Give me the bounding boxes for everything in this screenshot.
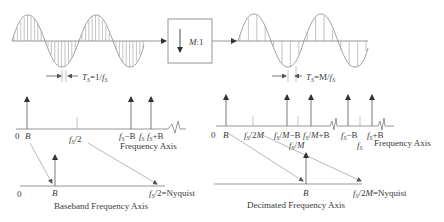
tick-B: B xyxy=(52,188,58,198)
tick-fs-half: fS/2 xyxy=(69,134,82,145)
tick-fs-M: fS/M xyxy=(289,140,305,151)
period-label-left: TS=1/fS xyxy=(82,72,108,83)
tick-0: 0 xyxy=(15,131,20,141)
axis-break-icon xyxy=(378,118,394,130)
sine-wave xyxy=(238,14,368,67)
frequency-axis-label: Frequency Axis xyxy=(120,141,177,151)
period-label-right: TS=M/fS xyxy=(306,72,335,83)
decimator-block: M:1 xyxy=(168,19,222,63)
tick-B: B xyxy=(25,131,31,141)
baseband-axis-label: Baseband Frequency Axis xyxy=(54,201,148,211)
decimation-factor-label: M:1 xyxy=(188,37,204,47)
right-frequency-spectrum: 0 B fS/2M fS/M−B fS/M+B fS/M fS−B fS fS+… xyxy=(211,95,431,151)
left-frequency-spectrum: 0 B fS/2 fS−B fS fS+B Frequency Axis xyxy=(15,97,186,151)
mapping-line-B xyxy=(30,143,52,183)
tick-fs-2M: fS/2M xyxy=(244,130,265,141)
decimation-diagram: TS=1/fS M:1 TS=M/fS 0 B fS/2 fS−B fS fS+… xyxy=(0,0,444,222)
tick-B: B xyxy=(223,130,229,140)
tick-fs: fS xyxy=(357,140,363,151)
tick-0: 0 xyxy=(17,189,22,199)
axis-break-icon xyxy=(168,121,186,133)
mapping-line-B xyxy=(228,133,303,181)
tick-nyquist: fS/2=Nyquist xyxy=(149,188,196,199)
decimated-axis-label: Decimated Frequency Axis xyxy=(247,200,345,210)
tick-B: B xyxy=(303,188,309,198)
tick-fs-M-plus-B: fS/M+B xyxy=(303,130,330,141)
frequency-axis-label: Frequency Axis xyxy=(374,138,431,148)
left-baseband-spectrum: 0 B fS/2=Nyquist Baseband Frequency Axis xyxy=(17,143,196,211)
tick-nyquist: fS/2M=Nyquist xyxy=(353,188,407,199)
tick-0: 0 xyxy=(211,130,216,140)
input-sampled-waveform: TS=1/fS xyxy=(12,15,166,83)
tick-fs-minus-B: fS−B xyxy=(341,130,358,141)
output-decimated-waveform: TS=M/fS xyxy=(222,14,368,83)
axis-break-icon xyxy=(330,118,342,130)
